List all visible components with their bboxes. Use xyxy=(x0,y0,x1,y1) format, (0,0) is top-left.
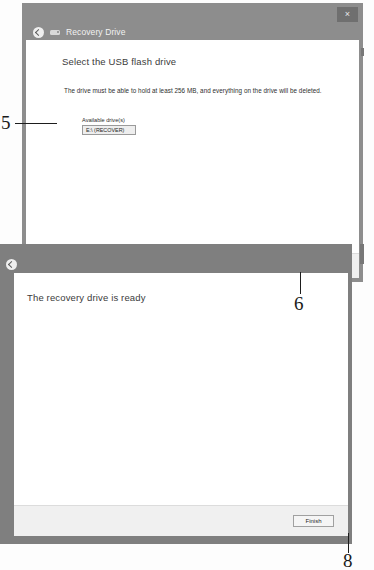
available-drives-list[interactable]: E:\ (RECOVER) xyxy=(82,125,136,135)
page-heading: The recovery drive is ready xyxy=(27,292,146,303)
window-two-wizard-header xyxy=(6,253,17,275)
window-one-scroll-nub-lower[interactable] xyxy=(360,244,364,264)
annotation-number-5: 5 xyxy=(1,113,11,132)
usb-drive-icon xyxy=(50,30,60,35)
figure-page: × Recovery Drive Select the USB flash dr… xyxy=(0,0,374,570)
close-button[interactable]: × xyxy=(337,7,358,22)
window-one-client-area: Select the USB flash drive The drive mus… xyxy=(26,40,359,278)
annotation-number-8: 8 xyxy=(343,551,353,570)
finish-button[interactable]: Finish xyxy=(293,515,334,527)
annotation-leader-5 xyxy=(15,123,57,124)
page-heading: Select the USB flash drive xyxy=(62,56,176,67)
back-arrow-icon[interactable] xyxy=(33,27,44,38)
available-drives-label: Available drive(s) xyxy=(82,117,125,123)
annotation-leader-6 xyxy=(300,272,301,294)
annotation-number-6: 6 xyxy=(294,294,304,313)
recovery-drive-window: × Recovery Drive Select the USB flash dr… xyxy=(22,3,363,282)
page-description: The drive must be able to hold at least … xyxy=(64,87,322,94)
back-arrow-icon[interactable] xyxy=(6,259,17,270)
window-one-scroll-nub[interactable] xyxy=(361,48,364,56)
window-title: Recovery Drive xyxy=(66,27,126,37)
